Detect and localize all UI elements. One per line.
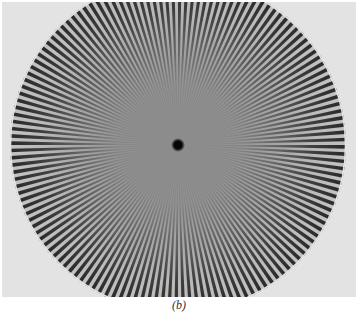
figure-caption: (b) xyxy=(0,298,358,313)
center-dot xyxy=(171,138,185,152)
siemens-star-graphic xyxy=(2,2,356,297)
siemens-star-image xyxy=(2,2,356,297)
